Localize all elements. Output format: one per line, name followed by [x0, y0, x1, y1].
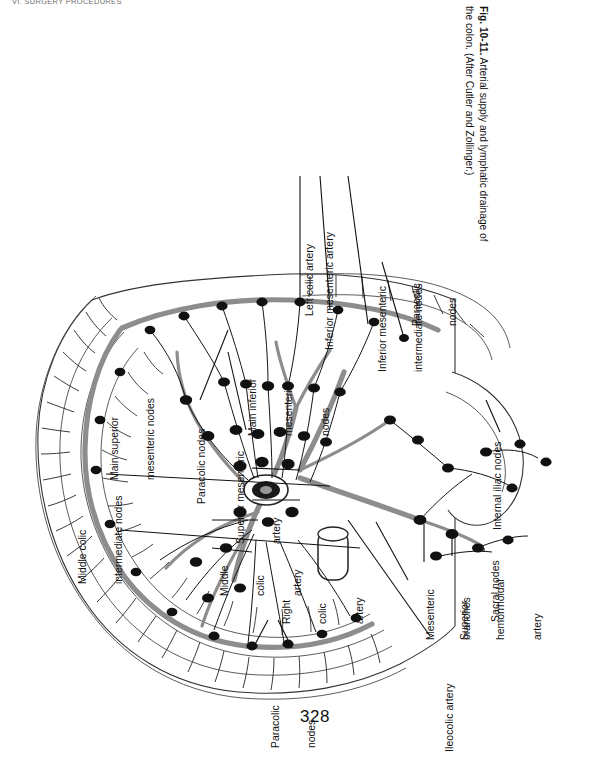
msmn-line2: mesenteric nodes [145, 398, 157, 480]
page-number: 328 [300, 707, 330, 727]
label-middle-colic-intermediate-nodes: Middle colic intermediate nodes [52, 496, 150, 584]
label-paracolic-nodes-mid: Paracolic nodes [196, 429, 208, 504]
rca-line1: Right [281, 597, 293, 624]
figure-number: Fig. 10-11. [478, 6, 489, 55]
mca-line3: artery [292, 565, 304, 596]
sha-line3: artery [532, 579, 544, 640]
label-main-superior-mesenteric-nodes: Main superior mesenteric nodes [84, 398, 182, 480]
mca-line1: Middle [219, 565, 231, 596]
pcr-line2: nodes [447, 283, 459, 326]
label-paracolic-nodes-right: Paracolic nodes [386, 283, 484, 326]
sha-line1: Superior [459, 579, 471, 640]
pcr-line1: Paracolic [411, 283, 423, 326]
mcin-line1: Middle colic [77, 496, 89, 584]
label-sacral-nodes: Sacral nodes [490, 560, 502, 622]
label-superior-mesenteric-artery: Superior mesenteric artery [210, 451, 308, 544]
mcin-line2: intermediate nodes [113, 496, 125, 584]
sma-line2: artery [271, 451, 283, 544]
label-left-colic-artery: Left colic artery [304, 244, 316, 316]
label-ileocolic-artery: Ileocolic artery [444, 683, 456, 752]
book-page: VI. SURGERY PROCEDURES [0, 0, 597, 757]
pcb-line1: Paracolic [270, 705, 282, 748]
mimn-line3: nodes [320, 379, 332, 436]
label-middle-colic-artery: Middle colic artery [194, 565, 329, 596]
label-right-colic-artery: Right colic artery [256, 597, 391, 624]
msmn-line1: Main superior [109, 398, 121, 480]
mimn-line1: Main inferior [247, 379, 259, 436]
label-internal-iliac-nodes: Internal iliac nodes [492, 441, 504, 530]
mca-line2: colic [255, 565, 267, 596]
sma-line1: Superior mesenteric [235, 451, 247, 544]
mimn-line2: mesenteric [283, 379, 295, 436]
label-main-inferior-mesenteric-nodes: Main inferior mesenteric nodes [222, 379, 357, 436]
rca-line2: colic [317, 597, 329, 624]
label-inferior-mesenteric-artery: Inferior mesenteric artery [324, 232, 336, 350]
figure-caption: Fig. 10-11. Arterial supply and lymphati… [462, 6, 490, 256]
rca-line3: artery [354, 597, 366, 624]
